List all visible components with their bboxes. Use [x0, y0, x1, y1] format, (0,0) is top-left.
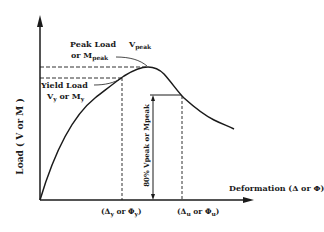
x-tick-ultimate: (Δu or Φu) [177, 208, 219, 216]
x-axis-label: Deformation (Δ or Φ) [229, 184, 324, 192]
peak-leader-line [116, 57, 147, 66]
yield-load-label: Yield Load [41, 81, 88, 89]
v-peak-symbol: Vpeak [129, 39, 151, 49]
x-axis-arrow-icon [243, 197, 254, 203]
yield-leader-line [94, 78, 122, 85]
x-tick-yield: (Δy or Φy) [101, 208, 142, 216]
yield-load-line2: Vy or My [47, 92, 84, 100]
peak-load-line1: Peak Load [70, 39, 116, 49]
arrow-down-icon [151, 194, 155, 200]
y-axis-arrow-icon [37, 15, 43, 27]
arrow-up-icon [151, 95, 155, 101]
peak-load-label: Peak Load Vpeak [70, 40, 151, 48]
y-axis-label: Load ( V or M ) [16, 97, 25, 177]
eighty-percent-label: 80% Vpeak or Mpeak [143, 101, 150, 191]
peak-load-line2: or Mpeak [71, 51, 108, 59]
